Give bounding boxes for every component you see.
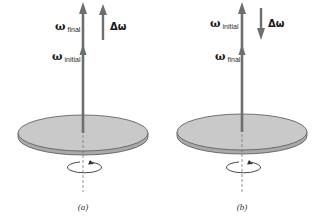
omega-final-arrowhead-a bbox=[79, 2, 87, 14]
angular-velocity-diagram: ωfinal ωinitial Δω (a) ωinitial ωfinal bbox=[0, 0, 325, 219]
delta-omega-arrowhead-a bbox=[99, 4, 107, 15]
rotation-arrow-icon-b bbox=[226, 160, 260, 173]
omega-initial-label-a: ωinitial bbox=[52, 50, 81, 63]
delta-omega-label-a: Δω bbox=[110, 21, 127, 32]
omega-initial-label-b: ωinitial bbox=[210, 17, 239, 30]
panel-a: ωfinal ωinitial Δω (a) bbox=[18, 2, 148, 212]
omega-initial-arrowhead-b bbox=[238, 2, 246, 14]
caption-b: (b) bbox=[237, 202, 248, 212]
panel-b: ωinitial ωfinal Δω (b) bbox=[177, 2, 307, 212]
delta-omega-label-b: Δω bbox=[268, 18, 285, 29]
rotation-arrow-icon-a bbox=[68, 160, 102, 173]
delta-omega-arrowhead-b bbox=[257, 28, 265, 40]
omega-final-arrowhead-b bbox=[239, 44, 246, 55]
omega-final-label-b: ωfinal bbox=[215, 50, 241, 63]
omega-initial-arrowhead-a bbox=[80, 44, 87, 55]
caption-a: (a) bbox=[78, 202, 89, 212]
omega-final-label-a: ωfinal bbox=[55, 20, 81, 33]
